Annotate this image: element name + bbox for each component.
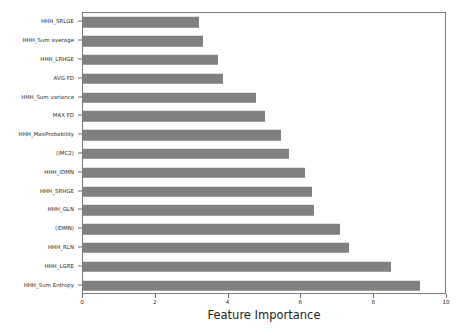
y-axis-tick-mark (78, 40, 82, 41)
bar-row (83, 163, 445, 182)
y-axis-tick-mark (78, 284, 82, 285)
y-axis-tick-mark (78, 96, 82, 97)
bar (83, 17, 199, 28)
y-axis-tick-label: HHH_Sum average (23, 37, 74, 43)
bar-row (83, 201, 445, 220)
bar-row (83, 145, 445, 164)
x-axis-tick-label: 0 (80, 299, 84, 305)
bar (83, 205, 314, 216)
y-axis-tick-mark (78, 247, 82, 248)
y-axis-tick-mark (78, 209, 82, 210)
y-axis-tick-label: HHH_GLN (48, 206, 74, 212)
bar (83, 92, 256, 103)
y-axis-tick-mark (78, 190, 82, 191)
bar (83, 36, 203, 47)
bar (83, 280, 420, 291)
y-axis-tick-mark (78, 59, 82, 60)
y-axis-tick-label: HHH_RLN (48, 244, 74, 250)
y-axis-tick-label: HHH_Sum Entropy (24, 282, 74, 288)
bar (83, 224, 340, 235)
y-axis-tick-label: HHH_MaxProbability (19, 131, 74, 137)
x-axis-tick-mark (373, 294, 374, 298)
bar (83, 262, 391, 273)
y-axis-tick-mark (78, 21, 82, 22)
bar (83, 111, 265, 122)
x-axis-tick-label: 2 (153, 299, 157, 305)
y-axis-tick-label: HHH_SRHGE (40, 188, 74, 194)
y-axis-tick-mark (78, 153, 82, 154)
bar-row (83, 239, 445, 258)
x-axis-tick-mark (446, 294, 447, 298)
bar-row (83, 126, 445, 145)
bar-row (83, 107, 445, 126)
y-axis-tick-label: HHH_LRHGE (40, 56, 74, 62)
x-axis-tick-mark (228, 294, 229, 298)
x-axis-tick-label: 4 (226, 299, 230, 305)
y-axis-tick-label: HHH_Sum variance (21, 94, 74, 100)
feature-importance-chart: HHH_SRLGEHHH_Sum averageHHH_LRHGEAVG FDH… (0, 0, 473, 330)
y-axis-tick-labels: HHH_SRLGEHHH_Sum averageHHH_LRHGEAVG FDH… (0, 12, 74, 294)
plot-area (82, 12, 446, 294)
bar (83, 130, 281, 141)
y-axis-tick-mark (78, 171, 82, 172)
x-axis-tick-label: 8 (371, 299, 375, 305)
x-axis-tick-mark (155, 294, 156, 298)
bar (83, 149, 289, 160)
y-axis-tick-label: AVG FD (54, 75, 74, 81)
y-axis-tick-label: (IMC2) (56, 150, 74, 156)
y-axis-tick-label: HHH_IDMN (44, 169, 74, 175)
x-axis-tick-label: 6 (299, 299, 303, 305)
bar-row (83, 182, 445, 201)
y-axis-tick-label: MAX FD (53, 112, 74, 118)
x-axis-tick-label: 10 (442, 299, 449, 305)
bar-row (83, 51, 445, 70)
bar-row (83, 220, 445, 239)
y-axis-tick-label: HHH_LGRE (44, 263, 74, 269)
x-axis-tick-mark (82, 294, 83, 298)
bar (83, 55, 218, 66)
y-axis-tick-mark (78, 228, 82, 229)
y-axis-tick-mark (78, 77, 82, 78)
bar (83, 168, 305, 179)
y-axis-tick-mark (78, 115, 82, 116)
x-axis-title: Feature Importance (82, 308, 446, 322)
bar-row (83, 88, 445, 107)
bar-row (83, 276, 445, 294)
bar (83, 74, 223, 85)
bar (83, 243, 349, 254)
x-axis-tick-mark (300, 294, 301, 298)
y-axis-tick-mark (78, 265, 82, 266)
bar-row (83, 13, 445, 32)
bar-row (83, 69, 445, 88)
bar (83, 186, 312, 197)
y-axis-tick-label: HHH_SRLGE (41, 18, 74, 24)
bar-row (83, 32, 445, 51)
y-axis-tick-label: (IDMN) (55, 225, 74, 231)
y-axis-tick-mark (78, 134, 82, 135)
bar-row (83, 257, 445, 276)
